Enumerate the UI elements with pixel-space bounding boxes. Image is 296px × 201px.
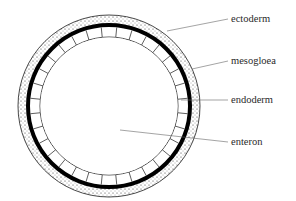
label-ectoderm: ectoderm bbox=[231, 13, 270, 24]
leader-line-mesogloea bbox=[192, 61, 228, 69]
layer-labels: ectoderm mesogloea endoderm enteron bbox=[231, 13, 276, 147]
enteron-cavity bbox=[40, 37, 177, 174]
leader-line-ectoderm bbox=[167, 19, 228, 31]
body-wall-cross-section-diagram: ectoderm mesogloea endoderm enteron bbox=[0, 0, 296, 201]
label-enteron: enteron bbox=[231, 136, 263, 147]
label-mesogloea: mesogloea bbox=[231, 55, 276, 66]
label-endoderm: endoderm bbox=[231, 94, 273, 105]
